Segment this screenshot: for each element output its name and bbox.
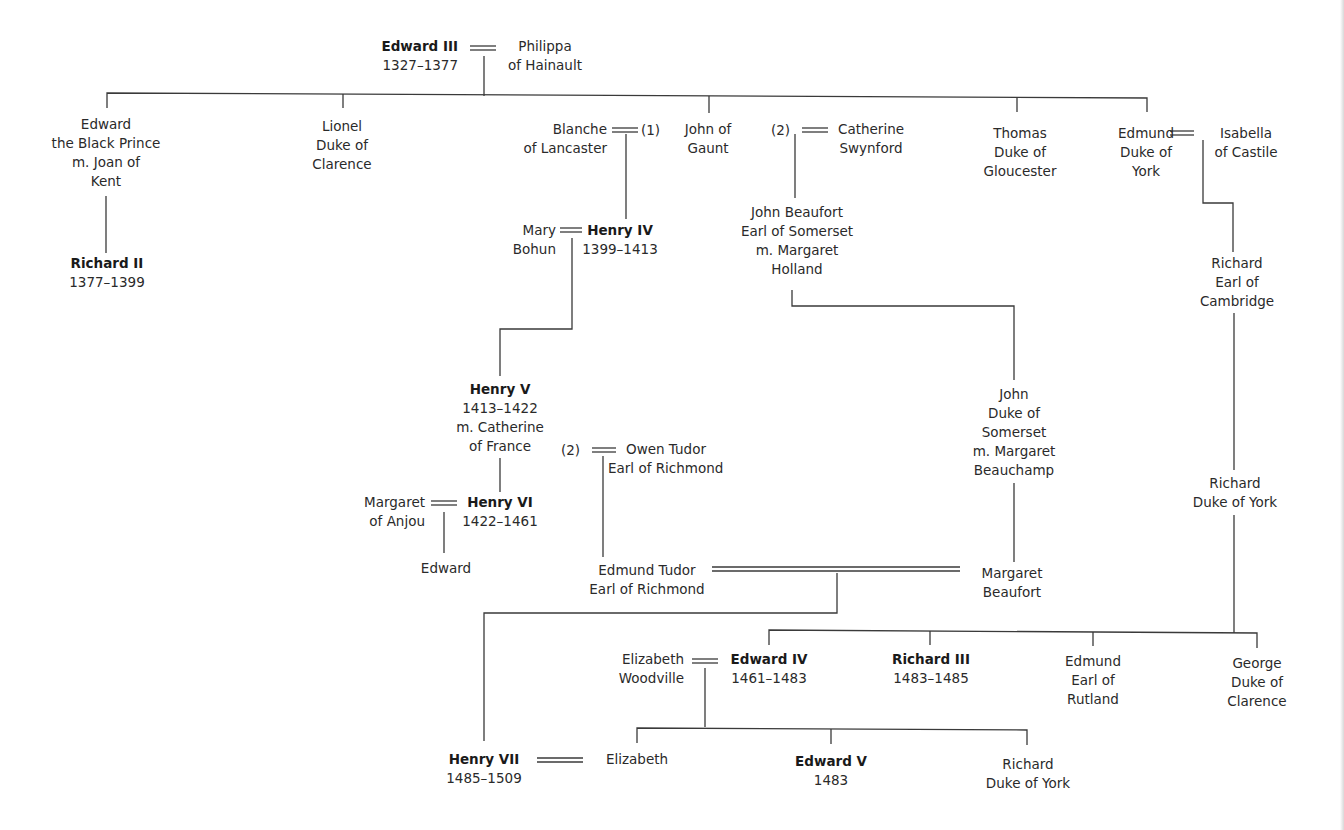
person-george-duke-of-clarence: George Duke of Clarence — [1227, 654, 1286, 711]
person-mary-bohun: Mary Bohun — [513, 221, 556, 259]
person-edmund-earl-of-rutland: Edmund Earl of Rutland — [1065, 652, 1121, 709]
person-elizabeth-of-york: Elizabeth — [606, 750, 668, 769]
marriage-order-marker-second: (2) — [771, 121, 790, 140]
person-edmund-tudor: Edmund Tudor Earl of Richmond — [589, 561, 704, 599]
family-tree-diagram: (1) (2) (2) Edward III 1327–1377 Philipp… — [0, 0, 1344, 830]
person-thomas-duke-of-gloucester: Thomas Duke of Gloucester — [984, 124, 1057, 181]
person-richard-earl-of-cambridge: Richard Earl of Cambridge — [1200, 254, 1274, 311]
person-owen-tudor: Owen Tudor Earl of Richmond — [608, 440, 723, 478]
person-richard-iii: Richard III 1483–1485 — [892, 650, 970, 688]
person-edward-v: Edward V 1483 — [795, 752, 867, 790]
page-edge-shadow — [1340, 0, 1344, 830]
person-edward-son-of-henry-vi: Edward — [421, 559, 471, 578]
person-margaret-of-anjou: Margaret of Anjou — [364, 493, 425, 531]
marriage-order-marker-catherine-second: (2) — [561, 441, 580, 460]
person-reign: 1327–1377 — [381, 56, 458, 75]
person-lionel-duke-of-clarence: Lionel Duke of Clarence — [312, 117, 371, 174]
marriage-order-marker-first: (1) — [641, 121, 660, 140]
person-richard-duke-of-york: Richard Duke of York — [1193, 474, 1277, 512]
person-elizabeth-woodville: Elizabeth Woodville — [619, 650, 684, 688]
person-john-duke-of-somerset: John Duke of Somerset m. Margaret Beauch… — [973, 385, 1056, 480]
person-name: Edward III — [381, 37, 458, 56]
person-henry-v: Henry V 1413–1422 m. Catherine of France — [456, 380, 544, 456]
person-blanche-of-lancaster: Blanche of Lancaster — [523, 120, 607, 158]
person-john-of-gaunt: John of Gaunt — [685, 120, 732, 158]
person-catherine-swynford: Catherine Swynford — [838, 120, 904, 158]
person-isabella-of-castile: Isabella of Castile — [1214, 124, 1277, 162]
person-edmund-duke-of-york: Edmund Duke of York — [1118, 124, 1174, 181]
person-henry-vi: Henry VI 1422–1461 — [462, 493, 537, 531]
person-margaret-beaufort: Margaret Beaufort — [982, 564, 1043, 602]
person-edward-iv: Edward IV 1461–1483 — [731, 650, 808, 688]
person-edward-black-prince: Edward the Black Prince m. Joan of Kent — [52, 115, 161, 191]
person-john-beaufort: John Beaufort Earl of Somerset m. Margar… — [741, 203, 853, 279]
person-richard-duke-of-york-younger: Richard Duke of York — [986, 755, 1070, 793]
person-henry-vii: Henry VII 1485–1509 — [446, 750, 521, 788]
person-edward-iii: Edward III 1327–1377 — [381, 37, 458, 75]
person-richard-ii: Richard II 1377–1399 — [69, 254, 144, 292]
person-henry-iv: Henry IV 1399–1413 — [582, 221, 657, 259]
person-philippa-of-hainault: Philippa of Hainault — [508, 37, 582, 75]
